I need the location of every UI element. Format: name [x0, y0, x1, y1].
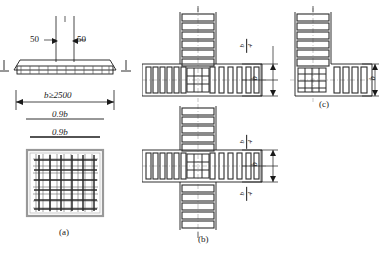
- dim-b-over-4-lower-bottom: b 4: [239, 187, 255, 201]
- panel-b-graphic: [142, 2, 282, 242]
- plan-view-mesh: [27, 150, 103, 216]
- dim-b-lower: b: [251, 158, 259, 170]
- cover-label-left: 50: [30, 35, 39, 44]
- dim-b-upper: b: [251, 72, 259, 84]
- dim-mid-label: 0.9b: [52, 110, 68, 119]
- cover-label-right: 50: [77, 35, 86, 44]
- level-symbol-left: [0, 60, 9, 71]
- dim-width-label: b≥2500: [44, 91, 71, 100]
- dim-bottom-label: 0.9b: [52, 128, 68, 137]
- dimension-stack-lower: [242, 150, 278, 182]
- dim-b-over-4-lower-top: b 4: [239, 135, 255, 149]
- panel-c-graphic: [282, 2, 379, 117]
- dim-b-over-4-upper: b 4: [239, 39, 255, 53]
- dimension-stack-upper: [242, 46, 278, 96]
- level-symbol-right: [121, 60, 131, 71]
- panel-a-graphic: [0, 2, 150, 242]
- panel-a-label: (a): [59, 228, 69, 237]
- dim-b-panel-c: b: [369, 72, 377, 84]
- engineering-drawing: 50 50 b≥2500 0.9b 0.9b (a): [0, 0, 379, 262]
- footing-outline: [14, 60, 116, 70]
- joint-upper: [142, 6, 266, 102]
- panel-b-label: (b): [198, 235, 209, 244]
- joint-lower: [142, 104, 266, 238]
- panel-c-label: (c): [319, 100, 329, 109]
